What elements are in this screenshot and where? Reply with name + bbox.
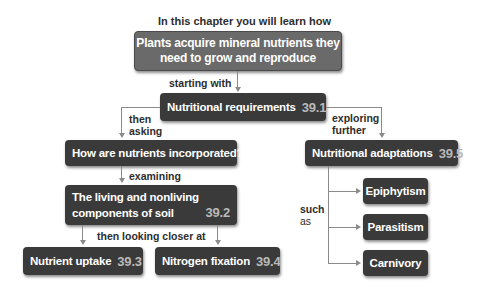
node-label: Epiphytism — [366, 185, 426, 197]
label-then-looking-closer: then looking closer at — [97, 230, 206, 242]
node-label: Nutritional adaptations — [312, 147, 433, 159]
label-then-asking: then asking — [129, 113, 162, 137]
arrow-down-icon — [379, 133, 385, 138]
connector-requirements-to-adaptations-h — [326, 107, 381, 108]
node-label: Carnivory — [370, 257, 422, 269]
label-examining: examining — [129, 170, 181, 182]
node-parasitism: Parasitism — [363, 214, 428, 240]
connector-to-parasitism — [328, 227, 358, 228]
main-topic-line2: need to grow and reproduce — [160, 51, 316, 66]
node-carnivory: Carnivory — [363, 250, 428, 276]
node-nutritional-requirements: Nutritional requirements 39.1 — [160, 93, 326, 121]
connector-to-carnivory — [328, 263, 358, 264]
connector-to-epiphytism — [328, 191, 358, 192]
node-label: How are nutrients incorporated? — [72, 147, 243, 159]
arrow-down-icon — [80, 240, 86, 245]
connector-requirements-to-adaptations-v — [381, 107, 382, 134]
section-number: 39.1 — [302, 100, 327, 115]
node-label: Nitrogen fixation — [162, 255, 250, 267]
node-nutrient-uptake: Nutrient uptake 39.3 — [23, 247, 143, 275]
node-label: Parasitism — [367, 221, 423, 233]
connector-adaptations-trunk — [328, 166, 329, 264]
arrow-down-icon — [215, 240, 221, 245]
node-label-line2: components of soil — [72, 206, 174, 221]
node-living-nonliving-soil: The living and nonliving components of s… — [65, 185, 237, 225]
arrow-down-icon — [235, 87, 241, 92]
node-nitrogen-fixation: Nitrogen fixation 39.4 — [155, 247, 280, 275]
arrow-right-icon — [356, 188, 361, 194]
node-epiphytism: Epiphytism — [363, 178, 428, 204]
section-number: 39.3 — [117, 254, 142, 269]
section-number: 39.2 — [205, 205, 230, 220]
section-number: 39.4 — [256, 254, 281, 269]
connector-requirements-to-question-h — [121, 107, 160, 108]
section-number: 39.5 — [439, 146, 464, 161]
connector-soil-to-uptake — [82, 225, 83, 241]
node-nutritional-adaptations: Nutritional adaptations 39.5 — [305, 140, 458, 166]
label-starting-with: starting with — [169, 77, 231, 89]
label-such-as: such as — [300, 203, 325, 227]
node-how-are-nutrients-incorporated: How are nutrients incorporated? — [65, 140, 237, 166]
arrow-right-icon — [356, 224, 361, 230]
connector-soil-to-nitrogen — [217, 225, 218, 241]
label-exploring-further: exploring further — [332, 112, 379, 136]
arrow-right-icon — [356, 260, 361, 266]
arrow-down-icon — [119, 133, 125, 138]
connector-requirements-to-question-v — [121, 107, 122, 134]
node-label-line1: The living and nonliving — [72, 190, 230, 205]
main-topic-box: Plants acquire mineral nutrients they ne… — [134, 31, 342, 71]
main-topic-line1: Plants acquire mineral nutrients they — [136, 36, 339, 51]
intro-heading: In this chapter you will learn how — [158, 15, 331, 27]
node-label: Nutritional requirements — [167, 101, 296, 113]
node-label: Nutrient uptake — [30, 255, 111, 267]
arrow-down-icon — [119, 178, 125, 183]
